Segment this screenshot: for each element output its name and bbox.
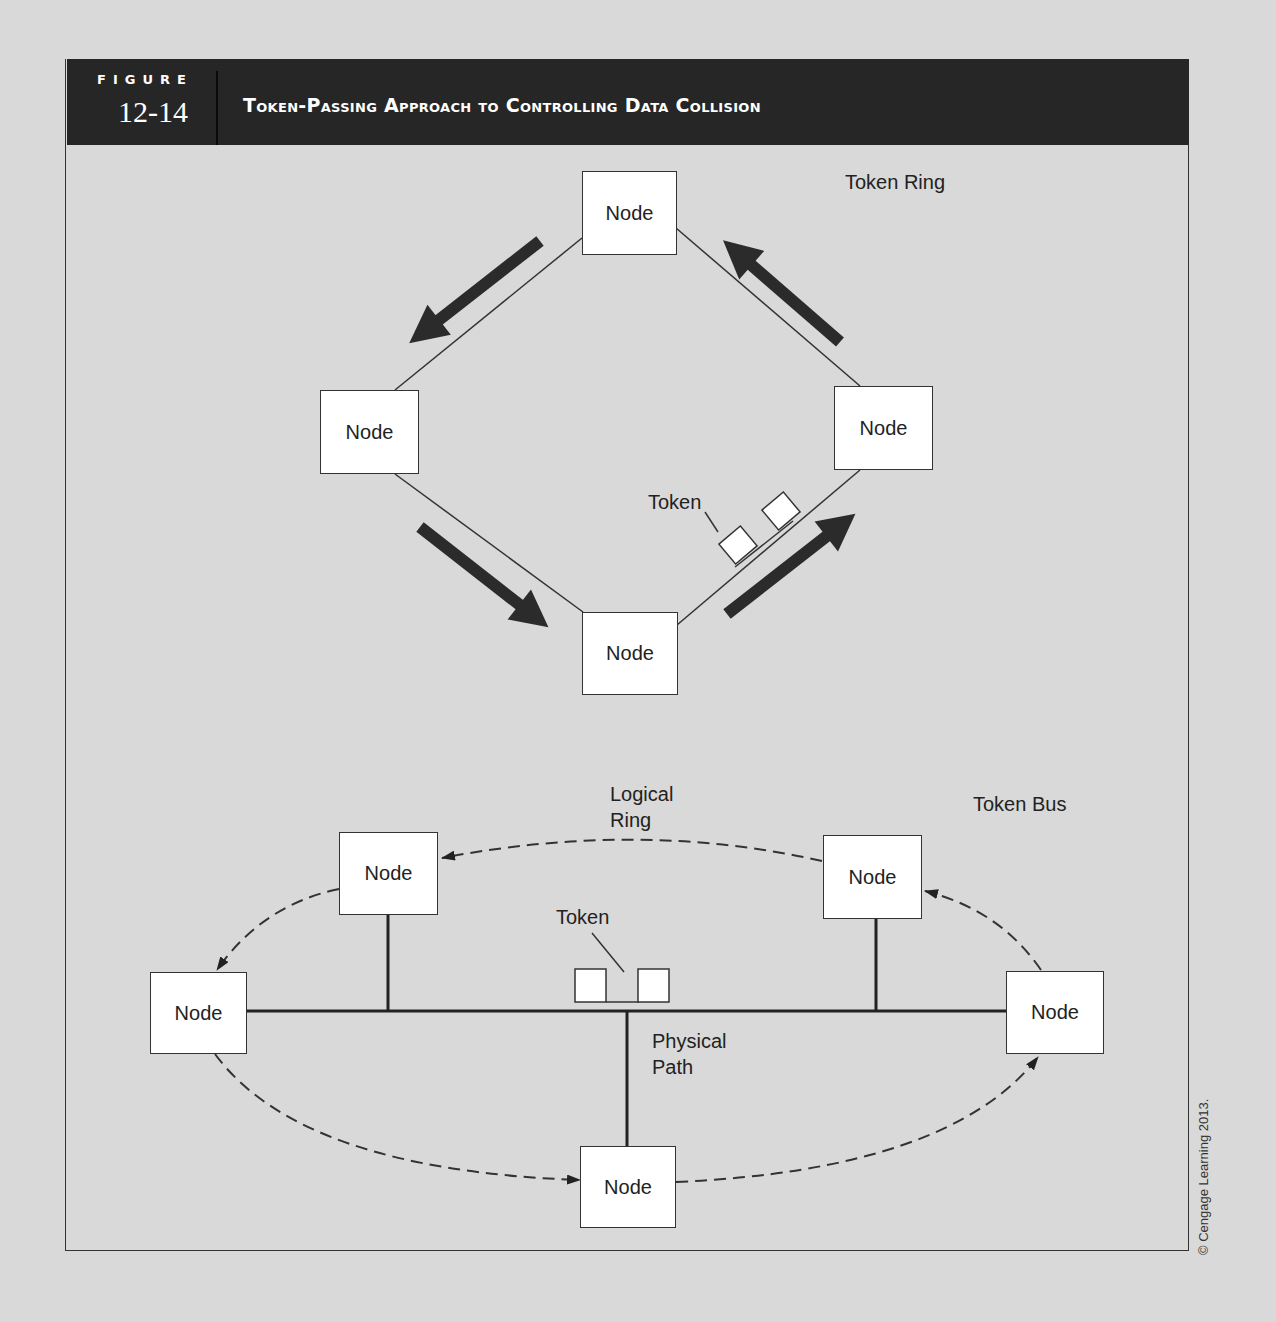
bus-node-bottom: Node [580, 1146, 676, 1228]
ring-token-label: Token [648, 489, 701, 515]
bus-node-right: Node [1006, 971, 1104, 1054]
ring-node-bottom: Node [582, 612, 678, 695]
ring-flow-arrows [397, 226, 867, 642]
arrow-down-right-icon [408, 512, 560, 642]
ring-token-icon [705, 492, 800, 567]
logical-ring-label: Logical Ring [610, 781, 673, 833]
arrow-up-left-icon [711, 226, 853, 356]
token-ring-title: Token Ring [845, 169, 945, 195]
bus-physical-path [246, 914, 1007, 1147]
bus-node-upper-left: Node [339, 832, 438, 915]
ring-node-right: Node [834, 386, 933, 470]
token-bus-title: Token Bus [973, 791, 1066, 817]
copyright-notice: © Cengage Learning 2013. [1196, 1099, 1211, 1255]
bus-token-icon [575, 933, 669, 1002]
ring-node-left: Node [320, 390, 419, 474]
bus-node-left: Node [150, 972, 247, 1054]
physical-path-label: Physical Path [652, 1028, 726, 1080]
arrow-down-left-icon [397, 226, 551, 358]
ring-node-top: Node [582, 171, 677, 255]
bus-node-upper-right: Node [823, 835, 922, 919]
bus-token-label: Token [556, 904, 609, 930]
